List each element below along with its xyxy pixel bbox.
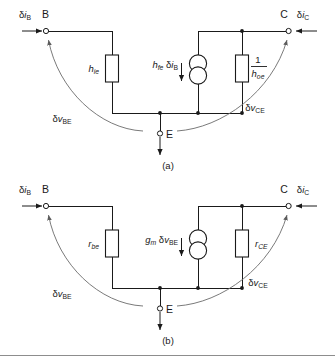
voltage-label-vbe-a: δvBE [52, 113, 72, 125]
current-source-circle-bottom-a [189, 67, 206, 84]
resistor-hoe-body-a [236, 55, 249, 82]
junction-dot-hoe-rail-a [240, 111, 244, 115]
terminal-label-e-a: E [166, 128, 173, 140]
circuit-diagram: δiB B hie E hfe δiB 1 [0, 0, 335, 359]
wire-base-to-hie-a [49, 31, 112, 55]
junction-dot-source-rail-a [196, 111, 200, 115]
terminal-label-e-b: E [166, 303, 173, 315]
terminal-node-c-a [286, 28, 291, 33]
wire-base-to-rbe-b [49, 206, 112, 230]
resistor-rce-label-b: rCE [255, 238, 268, 250]
resistor-rce-body-b [236, 230, 249, 257]
terminal-node-b-a [43, 28, 48, 33]
figure-container: δiB B hie E hfe δiB 1 [0, 0, 335, 359]
junction-dot-source-rail-b [196, 286, 200, 290]
circuit-b: δiB B rbe E gm δvBE rCE [19, 183, 317, 346]
terminal-node-e-b [157, 306, 162, 311]
terminal-label-b-b: B [42, 183, 49, 195]
voltage-arc-vce-a [177, 40, 287, 131]
voltage-label-vce-a: δvCE [245, 102, 265, 114]
resistor-rbe-body-b [106, 230, 119, 257]
voltage-label-vbe-b: δvBE [52, 288, 72, 300]
resistor-hie-label-a: hie [88, 63, 99, 75]
junction-dot-emitter-rail-a [158, 111, 162, 115]
current-source-circle-bottom-b [189, 242, 206, 259]
base-current-label-b: δiB [19, 184, 31, 196]
junction-dot-emitter-rail-b [158, 286, 162, 290]
terminal-label-c-b: C [280, 183, 288, 195]
terminal-label-c-a: C [280, 8, 288, 20]
resistor-hoe-numerator-a: 1 [255, 54, 260, 65]
collector-current-label-b: δiC [297, 184, 309, 196]
voltage-label-vce-b: δvCE [248, 277, 268, 289]
junction-dot-rce-rail-b [240, 286, 244, 290]
terminal-node-b-b [43, 203, 48, 208]
source-label-a: hfe δiB [152, 59, 178, 71]
terminal-node-c-b [286, 203, 291, 208]
resistor-hie-body-a [106, 55, 119, 82]
circuit-a: δiB B hie E hfe δiB 1 [19, 8, 317, 171]
caption-a: (a) [162, 160, 174, 171]
terminal-label-b-a: B [42, 8, 49, 20]
voltage-arc-vce-b [177, 215, 287, 306]
collector-current-label-a: δiC [297, 9, 309, 21]
caption-b: (b) [162, 335, 174, 346]
base-current-label-a: δiB [19, 9, 31, 21]
terminal-node-e-a [157, 131, 162, 136]
resistor-rbe-label-b: rbe [88, 238, 99, 250]
source-label-b: gm δvBE [145, 234, 178, 246]
resistor-hoe-denominator-a: hoe [252, 68, 265, 80]
